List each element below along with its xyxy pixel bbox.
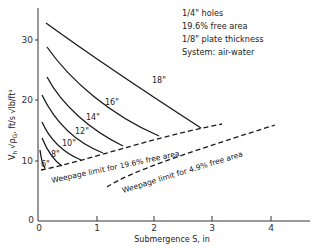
- curve-label-16in: 16": [105, 98, 119, 107]
- x-tick-label-2: 2: [151, 223, 157, 233]
- x-tick-label-3: 3: [209, 223, 215, 233]
- weepage-limit-4-9: [107, 125, 275, 187]
- y-axis-title-units: , ft/s √lb/ft³: [8, 89, 17, 133]
- y-axis-title: Vh√ρG, ft/s √lb/ft³: [8, 89, 18, 160]
- y-tick-label-0: 0: [28, 215, 34, 225]
- y-tick-label-30: 30: [22, 35, 34, 45]
- curve-label-8in: 8": [51, 150, 60, 159]
- annotation-hole-size: 1/4" holes: [182, 8, 223, 18]
- y-tick-label-10: 10: [22, 156, 34, 166]
- y-axis-title-rho: √ρ: [8, 139, 17, 149]
- x-tick-label-0: 0: [36, 223, 42, 233]
- annotation-system: System: air-water: [182, 47, 255, 57]
- curve-label-14in: 14": [86, 113, 100, 122]
- weepage-chart: 30 20 10 0 0 1 2 3 4 Submergence S, in V…: [0, 0, 315, 248]
- x-axis-title: Submergence S, in: [134, 235, 209, 244]
- annotation-free-area: 19.6% free area: [182, 21, 248, 31]
- curve-label-18in: 18": [152, 76, 166, 85]
- x-tick-label-1: 1: [94, 223, 100, 233]
- y-tick-label-20: 20: [22, 95, 34, 105]
- curve-16in: [47, 47, 159, 136]
- curve-label-12in: 12": [75, 127, 89, 136]
- curve-label-10in: 10": [62, 139, 76, 148]
- curve-label-6in: 6": [41, 160, 50, 169]
- x-tick-label-4: 4: [268, 223, 274, 233]
- y-axis-title-sub-h: h: [11, 151, 18, 155]
- curve-18in: [46, 23, 201, 128]
- annotation-plate-thickness: 1/8" plate thickness: [182, 34, 264, 44]
